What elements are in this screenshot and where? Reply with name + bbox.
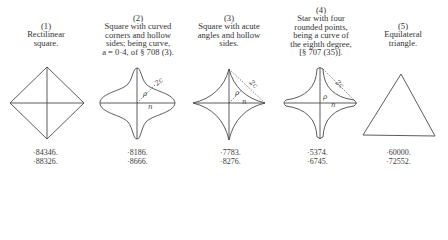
figure-5-values: ·60000. ·72552. <box>386 148 411 166</box>
two-c-label: 2c <box>247 78 259 90</box>
equilateral-triangle-shape <box>363 74 435 136</box>
value-1: ·7783. <box>220 148 241 157</box>
value-2: ·6745. <box>307 157 328 166</box>
rectilinear-square-shape <box>10 67 84 139</box>
value-2: ·72552. <box>386 157 411 166</box>
figure-1-values: ·84346. ·88326. <box>33 148 58 166</box>
value-2: ·8666. <box>127 157 148 166</box>
n-label: n <box>148 103 153 111</box>
value-2: ·88326. <box>33 157 58 166</box>
curved-square-shape <box>100 68 175 139</box>
rho-label: ρ <box>234 89 240 97</box>
value-1: ·8186. <box>127 148 148 157</box>
two-c-label: 2c <box>333 78 345 90</box>
value-1: ·60000. <box>386 148 411 157</box>
figure-2-values: ·8186. ·8666. <box>127 148 148 166</box>
value-1: ·5374. <box>307 148 328 157</box>
value-2: ·8276. <box>220 157 241 166</box>
rho-label: ρ <box>322 93 328 101</box>
figure-4-values: ·5374. ·6745. <box>307 148 328 166</box>
n-label: n <box>331 101 336 109</box>
figure-3-values: ·7783. ·8276. <box>220 148 241 166</box>
rho-label: ρ <box>142 90 148 98</box>
n-label: n <box>242 98 247 106</box>
four-point-star-shape <box>284 68 357 140</box>
two-c-label: 2c <box>152 76 164 88</box>
value-1: ·84346. <box>33 148 58 157</box>
